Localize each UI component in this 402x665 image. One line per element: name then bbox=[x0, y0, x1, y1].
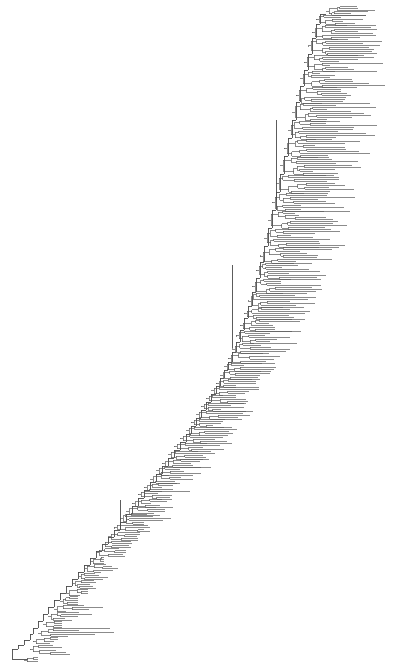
figure-background bbox=[0, 0, 402, 665]
phylogenetic-tree-figure bbox=[0, 0, 402, 665]
tree-canvas bbox=[0, 0, 402, 665]
